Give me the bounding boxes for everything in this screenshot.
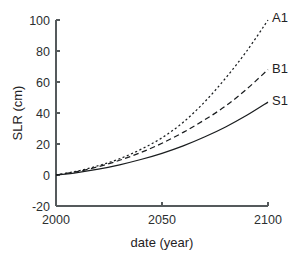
y-tick-label: 40 — [36, 107, 50, 121]
y-tick-label: 20 — [36, 138, 50, 152]
y-tick-label: 100 — [29, 14, 50, 28]
x-axis-title: date (year) — [131, 235, 194, 250]
series-label-a1: A1 — [272, 10, 288, 25]
series-line-b1 — [56, 70, 268, 175]
series-label-group: A1B1S1 — [272, 10, 288, 108]
series-label-b1: B1 — [272, 61, 288, 76]
slr-line-chart: -20020406080100 200020502100 A1B1S1 date… — [0, 0, 296, 257]
series-label-s1: S1 — [272, 93, 288, 108]
x-tick-label: 2050 — [148, 213, 176, 227]
x-axis-group: 200020502100 — [42, 202, 282, 227]
x-tick-label: 2100 — [254, 213, 282, 227]
figure-container: -20020406080100 200020502100 A1B1S1 date… — [0, 0, 296, 257]
x-tick-label: 2000 — [42, 213, 70, 227]
y-axis-title: SLR (cm) — [10, 86, 25, 141]
y-tick-label: 80 — [36, 45, 50, 59]
y-tick-label: 60 — [36, 76, 50, 90]
y-tick-label: -20 — [32, 200, 50, 214]
series-line-s1 — [56, 102, 268, 175]
y-axis-group: -20020406080100 — [29, 14, 60, 214]
y-tick-label: 0 — [43, 169, 50, 183]
data-series-group — [56, 20, 268, 175]
